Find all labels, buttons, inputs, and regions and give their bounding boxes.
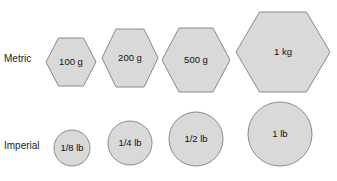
row-label-imperial: Imperial bbox=[4, 140, 40, 151]
weight-shape: 100 g bbox=[46, 38, 96, 86]
weight-shape: 1/2 lb bbox=[169, 112, 223, 166]
weight-label: 200 g bbox=[118, 52, 142, 63]
figure-canvas: Metric100 g200 g500 g1 kgImperial1/8 lb1… bbox=[0, 0, 337, 181]
weight-label: 500 g bbox=[184, 54, 208, 65]
weight-shape: 1/4 lb bbox=[108, 121, 152, 165]
weight-label: 1/4 lb bbox=[118, 137, 141, 148]
weight-shape: 1 kg bbox=[236, 12, 330, 92]
weight-shape: 200 g bbox=[102, 29, 158, 87]
weight-shape: 500 g bbox=[162, 28, 230, 92]
weight-label: 100 g bbox=[59, 56, 83, 67]
weight-label: 1/8 lb bbox=[60, 142, 83, 153]
weight-shape: 1/8 lb bbox=[54, 130, 90, 166]
weight-label: 1 lb bbox=[272, 128, 287, 139]
weight-label: 1/2 lb bbox=[184, 133, 207, 144]
row-imperial: Imperial1/8 lb1/4 lb1/2 lb1 lb bbox=[4, 102, 312, 166]
row-metric: Metric100 g200 g500 g1 kg bbox=[4, 12, 330, 92]
weights-comparison-figure: Metric100 g200 g500 g1 kgImperial1/8 lb1… bbox=[0, 0, 337, 181]
row-label-metric: Metric bbox=[4, 53, 31, 64]
weight-label: 1 kg bbox=[274, 46, 292, 57]
weight-shape: 1 lb bbox=[248, 102, 312, 166]
